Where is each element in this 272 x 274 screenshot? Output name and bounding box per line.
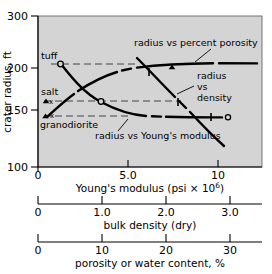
- porosity-axis: [38, 234, 262, 242]
- x1-tick-label-0: 0: [35, 169, 42, 182]
- x1-axis-title-main: Young's modulus (psi × 10: [75, 182, 215, 194]
- x3-tick-label-30: 30: [223, 244, 237, 257]
- bulk-density-axis: [38, 196, 262, 204]
- x3-tick-label-0: 0: [35, 244, 42, 257]
- x2-tick-label-1: 1.0: [93, 206, 111, 219]
- rock-label-salt: salt: [41, 86, 58, 97]
- annotation-radius-vs-density-line2: vs: [197, 81, 208, 92]
- annotation-radius-vs-density-line3: density: [197, 92, 232, 103]
- x3-tick-label-20: 20: [159, 244, 173, 257]
- y-tick-label-300: 300: [7, 10, 28, 23]
- youngs-modulus-end-marker: [225, 115, 230, 120]
- salt-open-marker: [98, 99, 104, 105]
- x1-tick-label-5: 5.0: [119, 169, 137, 182]
- annotation-radius-vs-percent-porosity: radius vs percent porosity: [134, 37, 258, 48]
- y-tick-label-100: 100: [7, 161, 28, 174]
- x2-tick-label-2: 2.0: [157, 206, 175, 219]
- x1-axis-title: Young's modulus (psi × 106): [75, 181, 224, 194]
- x3-axis-title: porosity or water content, %: [75, 257, 225, 269]
- chart-svg: 300 200 150 100 crater radius, ft: [0, 0, 272, 274]
- tuff-marker: [58, 61, 64, 67]
- rock-label-granodiorite: granodiorite: [40, 119, 98, 130]
- salt-x-marker: x: [49, 98, 53, 106]
- y-axis: [31, 16, 38, 167]
- annotation-radius-vs-youngs-modulus: radius vs Young's modulus: [95, 130, 221, 141]
- x1-axis-title-tail: ): [220, 182, 224, 194]
- x2-tick-label-0: 0: [35, 206, 42, 219]
- chart-figure: 300 200 150 100 crater radius, ft: [0, 0, 272, 274]
- rock-label-tuff: tuff: [41, 50, 58, 61]
- y-axis-title: crater radius, ft: [1, 51, 13, 133]
- x2-axis-title: bulk density (dry): [104, 219, 197, 231]
- x2-tick-label-3: 3.0: [221, 206, 239, 219]
- x3-tick-label-10: 10: [95, 244, 109, 257]
- annotation-radius-vs-density-line1: radius: [197, 70, 226, 81]
